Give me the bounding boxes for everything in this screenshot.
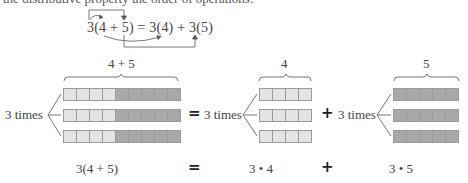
- dark-cell: [419, 109, 433, 122]
- dark-cell: [154, 130, 168, 143]
- dark-cell: [115, 109, 129, 122]
- brace-label-group3: 5: [423, 56, 430, 72]
- cell-row: [393, 88, 458, 100]
- dark-cell: [141, 130, 155, 143]
- light-cell: [89, 88, 103, 101]
- dark-cell: [128, 88, 142, 101]
- light-cell: [272, 109, 286, 122]
- light-cell: [63, 109, 77, 122]
- light-cell: [259, 88, 273, 101]
- light-cell: [285, 109, 299, 122]
- bracket-arrow-top-icon: [89, 10, 127, 20]
- light-cell: [298, 130, 312, 143]
- cell-row: [259, 109, 311, 121]
- fan-lines-group2-icon: [243, 94, 257, 136]
- cell-row: [63, 109, 180, 121]
- light-cell: [259, 109, 273, 122]
- equals-sign: =: [188, 104, 201, 122]
- dark-cell: [167, 130, 181, 143]
- bottom-expression-right: 3 • 5: [389, 161, 413, 177]
- times-label-group2: 3 times: [204, 107, 242, 123]
- times-label-group1: 3 times: [5, 107, 43, 123]
- dark-cell: [141, 88, 155, 101]
- light-cell: [285, 88, 299, 101]
- dark-cell: [445, 130, 459, 143]
- light-cell: [102, 109, 116, 122]
- light-cell: [63, 88, 77, 101]
- dark-cell: [445, 109, 459, 122]
- dark-cell: [445, 88, 459, 101]
- dark-cell: [393, 130, 407, 143]
- light-cell: [259, 130, 273, 143]
- dark-cell: [115, 88, 129, 101]
- cell-row: [259, 130, 311, 142]
- dark-cell: [115, 130, 129, 143]
- cell-row: [63, 88, 180, 100]
- light-cell: [76, 109, 90, 122]
- cell-row: [393, 109, 458, 121]
- dark-cell: [128, 109, 142, 122]
- light-cell: [102, 130, 116, 143]
- dark-cell: [432, 88, 446, 101]
- brace-group2-icon: [259, 74, 311, 81]
- light-cell: [272, 88, 286, 101]
- dark-cell: [141, 109, 155, 122]
- dark-cell: [393, 109, 407, 122]
- bottom-equals-sign: =: [188, 158, 201, 176]
- light-cell: [298, 109, 312, 122]
- cell-row: [393, 130, 458, 142]
- dark-cell: [154, 109, 168, 122]
- fan-lines-group1-icon: [48, 94, 61, 136]
- light-cell: [63, 130, 77, 143]
- fan-lines-group3-icon: [377, 94, 391, 136]
- dark-cell: [167, 109, 181, 122]
- bottom-expression-left: 3(4 + 5): [76, 161, 118, 177]
- light-cell: [102, 88, 116, 101]
- light-cell: [272, 130, 286, 143]
- cell-row: [259, 88, 311, 100]
- light-cell: [76, 88, 90, 101]
- dark-cell: [419, 130, 433, 143]
- dark-cell: [419, 88, 433, 101]
- curved-arrow-bottom-icon: [104, 36, 161, 42]
- light-cell: [89, 109, 103, 122]
- brace-label-group1: 4 + 5: [108, 56, 135, 72]
- dark-cell: [406, 88, 420, 101]
- dark-cell: [393, 88, 407, 101]
- dark-cell: [154, 88, 168, 101]
- plus-sign: +: [321, 104, 334, 122]
- brace-group3-icon: [394, 74, 459, 81]
- dark-cell: [432, 109, 446, 122]
- bottom-plus-sign: +: [321, 158, 334, 176]
- light-cell: [285, 130, 299, 143]
- brace-group1-icon: [64, 74, 178, 81]
- bottom-expression-middle: 3 • 4: [249, 161, 273, 177]
- brace-label-group2: 4: [281, 56, 288, 72]
- dark-cell: [128, 130, 142, 143]
- dark-cell: [167, 88, 181, 101]
- dark-cell: [406, 109, 420, 122]
- light-cell: [298, 88, 312, 101]
- light-cell: [89, 130, 103, 143]
- cell-row: [63, 130, 180, 142]
- dark-cell: [432, 130, 446, 143]
- light-cell: [76, 130, 90, 143]
- times-label-group3: 3 times: [338, 107, 376, 123]
- curved-arrow-small-icon: [90, 15, 103, 19]
- dark-cell: [406, 130, 420, 143]
